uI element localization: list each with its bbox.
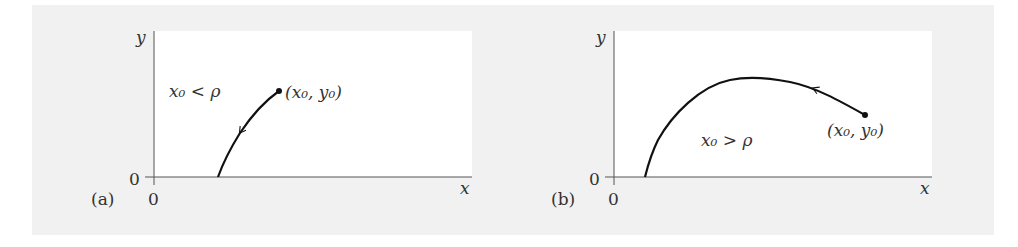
y-axis-label: y (135, 27, 146, 47)
x-origin-tick: 0 (148, 189, 159, 209)
point-label: (x₀, y₀) (827, 120, 884, 140)
y-origin-tick: 0 (129, 169, 140, 189)
x-axis-label: x (460, 178, 470, 198)
plot-area (154, 31, 472, 177)
start-point (862, 112, 868, 118)
figure: y x 0 0 (a) x₀ < ρ (x₀, y₀) y x 0 0 (b) … (0, 0, 1018, 247)
x-axis-label: x (920, 178, 930, 198)
plot-area (614, 31, 932, 177)
y-origin-tick: 0 (589, 169, 600, 189)
region-label: x₀ < ρ (169, 81, 220, 101)
start-point (276, 88, 282, 94)
panel-a: y x 0 0 (a) x₀ < ρ (x₀, y₀) (91, 27, 472, 209)
panel-b: y x 0 0 (b) x₀ > ρ (x₀, y₀) (551, 27, 932, 209)
panel-label: (a) (91, 189, 114, 209)
y-axis-label: y (595, 27, 606, 47)
region-label: x₀ > ρ (701, 130, 752, 150)
panel-label: (b) (551, 189, 575, 209)
x-origin-tick: 0 (608, 189, 619, 209)
point-label: (x₀, y₀) (285, 82, 342, 102)
